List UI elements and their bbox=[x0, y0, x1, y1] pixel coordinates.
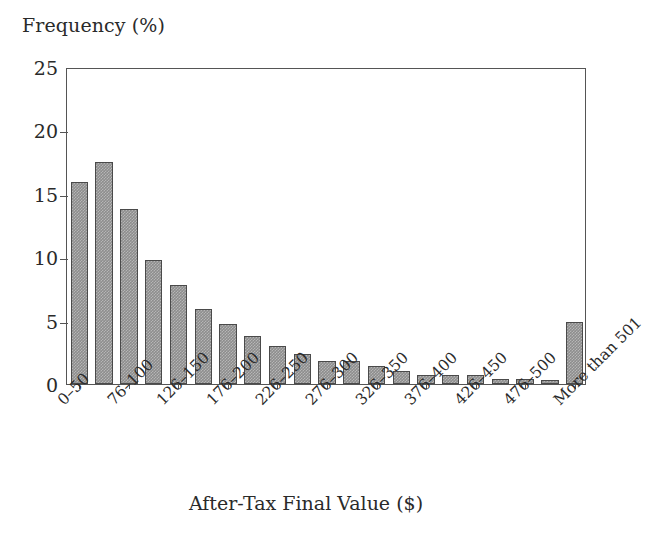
plot-area bbox=[66, 68, 586, 385]
bar bbox=[120, 209, 137, 384]
y-axis-tick-label: 25 bbox=[18, 57, 58, 79]
bar bbox=[71, 182, 88, 384]
bar bbox=[541, 380, 558, 384]
x-axis-title: After-Tax Final Value ($) bbox=[0, 492, 612, 514]
y-axis-tick-label: 10 bbox=[18, 247, 58, 269]
y-axis-tick-label: 5 bbox=[18, 311, 58, 333]
bar bbox=[95, 162, 112, 384]
y-axis-tick-label: 15 bbox=[18, 184, 58, 206]
bar bbox=[492, 379, 509, 384]
y-axis-tick-label: 20 bbox=[18, 120, 58, 142]
bar-series bbox=[67, 69, 585, 384]
x-axis-tick-label-group: 0–5076–100126–150176–200226–250276–30032… bbox=[0, 392, 612, 492]
